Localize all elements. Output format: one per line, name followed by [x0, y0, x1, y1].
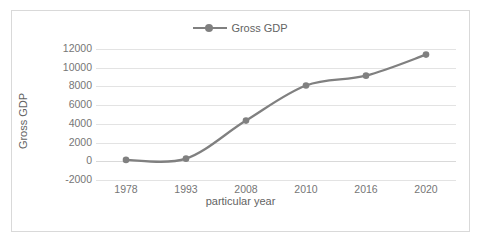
x-tick-label: 1993	[156, 183, 216, 195]
x-tick-label: 1978	[96, 183, 156, 195]
y-tick-label: 2000	[44, 137, 92, 148]
x-tick-label: 2008	[216, 183, 276, 195]
x-axis-title: particular year	[12, 195, 469, 207]
data-point-marker[interactable]	[423, 51, 430, 58]
y-axis-tick-labels: 120001000080006000400020000-2000	[38, 49, 92, 180]
y-tick-label: 10000	[44, 62, 92, 73]
y-tick-label: -2000	[44, 174, 92, 185]
chart-frame: Gross GDP Gross GDP 12000100008000600040…	[11, 10, 470, 232]
y-tick-label: 0	[44, 155, 92, 166]
y-tick-label: 6000	[44, 99, 92, 110]
plot-area	[96, 49, 456, 180]
legend-entry-gross-gdp[interactable]: Gross GDP	[193, 22, 287, 34]
series-line	[126, 55, 426, 162]
data-point-marker[interactable]	[303, 82, 310, 89]
series-gross-gdp	[96, 49, 456, 180]
y-tick-label: 8000	[44, 80, 92, 91]
data-point-marker[interactable]	[123, 157, 130, 164]
legend-circle-marker-icon	[205, 24, 213, 32]
data-point-marker[interactable]	[183, 155, 190, 162]
y-axis-title-text: Gross GDP	[17, 93, 29, 149]
data-point-marker[interactable]	[243, 117, 250, 124]
x-tick-label: 2020	[396, 183, 456, 195]
data-point-marker[interactable]	[363, 72, 370, 79]
y-tick-label: 12000	[44, 43, 92, 54]
x-tick-label: 2010	[276, 183, 336, 195]
y-tick-label: 4000	[44, 118, 92, 129]
legend-label: Gross GDP	[231, 22, 287, 34]
legend-line-marker-icon	[193, 22, 227, 34]
gridline	[96, 180, 456, 181]
x-tick-label: 2016	[336, 183, 396, 195]
chart-legend: Gross GDP	[12, 20, 469, 36]
y-axis-title: Gross GDP	[15, 71, 31, 171]
